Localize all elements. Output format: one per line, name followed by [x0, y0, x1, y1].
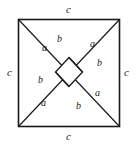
- side-label-left: c: [7, 67, 12, 78]
- segment-label-b-bottom-left: b: [38, 75, 43, 85]
- segment-label-a-top-right: a: [90, 39, 95, 49]
- segment-label-b-top-left: b: [57, 34, 62, 44]
- segment-label-b-top-right: b: [97, 58, 102, 68]
- segment-label-a-bottom-right: a: [95, 88, 100, 98]
- diagram-canvas: [0, 0, 137, 147]
- pythagorean-proof-figure: c c c c a b a b b a b a: [0, 0, 137, 147]
- side-label-right: c: [124, 67, 129, 78]
- segment-label-b-bottom-right: b: [76, 101, 81, 111]
- segment-label-a-top-left: a: [42, 43, 47, 53]
- side-label-top: c: [66, 4, 71, 15]
- side-label-bottom: c: [66, 131, 71, 142]
- segment-label-a-bottom-left: a: [41, 98, 46, 108]
